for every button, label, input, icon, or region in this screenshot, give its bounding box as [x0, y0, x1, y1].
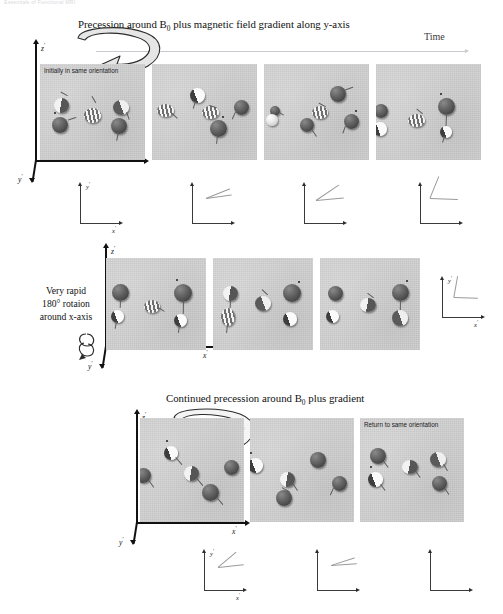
top-z-arrowhead	[33, 39, 39, 44]
middle-caption: Very rapid 180° rotaion around x-axis	[16, 284, 116, 323]
bot-y-label: y′	[119, 536, 124, 547]
bot-y-arrowhead	[130, 540, 136, 545]
top-x-axis	[35, 160, 145, 162]
top-panel-1-note: Initially in same orientation	[44, 67, 118, 74]
mini-axes-row1-1: y′ x′	[66, 178, 128, 226]
top-title-post: plus magnetic field gradient along y-axi…	[170, 18, 349, 30]
top-panel-2	[152, 64, 257, 160]
top-z-axis	[35, 44, 37, 162]
mini-axes-row1-2	[178, 178, 240, 226]
top-panel-3	[264, 64, 369, 160]
mini-axes-row1-3	[290, 178, 352, 226]
bottom-panel-1	[140, 418, 244, 522]
bottom-panel-2	[250, 418, 354, 522]
mid-y-arrowhead	[99, 364, 105, 369]
time-axis-arrowhead	[465, 49, 469, 53]
bottom-panel-3: Return to same orientation	[360, 418, 464, 522]
mini-axes-row3-1: y′ x′	[192, 545, 254, 593]
top-panel-4	[376, 64, 481, 160]
middle-caption-line2: 180° rotaion	[16, 297, 116, 310]
bottom-title-pre: Continued precession around B	[166, 392, 302, 404]
mini-axes-row3-2	[305, 545, 367, 593]
bottom-title-post: plus gradient	[306, 392, 365, 404]
bot-z-arrowhead	[134, 409, 140, 414]
bot-x-axis	[136, 522, 246, 524]
mid-x-label: x′	[203, 349, 208, 360]
middle-panel-2	[213, 258, 313, 350]
middle-caption-line1: Very rapid	[16, 284, 116, 297]
x-axis-rotation-corkscrew	[76, 330, 102, 364]
bot-x-label: x′	[232, 525, 237, 536]
mini-axes-row2-1: y′ x′	[432, 272, 494, 320]
running-head: Essentials of Functional MRI	[4, 0, 204, 7]
bot-z-axis	[136, 414, 138, 524]
top-z-label: z′	[41, 42, 45, 53]
time-label: Time	[424, 31, 445, 42]
top-panel-1: Initially in same orientation	[40, 64, 145, 160]
mid-z-arrowhead	[103, 243, 109, 248]
diagram-canvas: Essentials of Functional MRI Precession …	[0, 0, 503, 614]
bottom-panel-3-note: Return to same orientation	[364, 421, 438, 428]
top-y-arrowhead	[29, 178, 35, 183]
top-y-label: y′	[18, 173, 23, 184]
middle-panel-3	[320, 258, 420, 350]
middle-panel-1	[106, 258, 206, 350]
mini-axes-row3-3	[418, 545, 480, 593]
mid-z-label: z′	[111, 245, 115, 256]
mini-axes-row1-4	[406, 178, 468, 226]
middle-caption-line3: around x-axis	[16, 310, 116, 323]
